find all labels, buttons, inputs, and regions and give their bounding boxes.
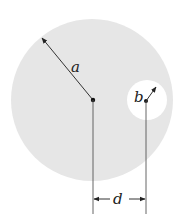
cylinder-with-cavity-diagram: a b d xyxy=(0,0,180,216)
label-a: a xyxy=(71,58,80,76)
label-b: b xyxy=(134,88,144,106)
label-d: d xyxy=(113,190,123,208)
